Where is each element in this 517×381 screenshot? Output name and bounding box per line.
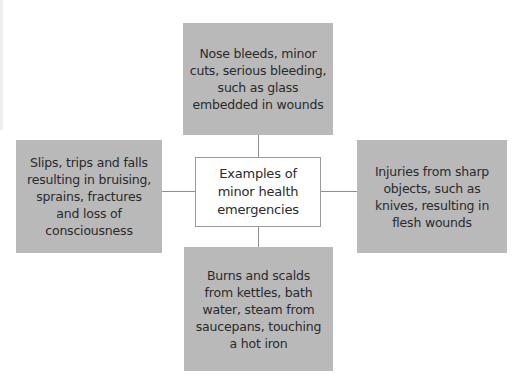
node-right-label: Injuries from sharp objects, such as kni… [357,163,507,231]
node-right: Injuries from sharp objects, such as kni… [357,140,507,253]
node-bottom: Burns and scalds from kettles, bath wate… [184,247,333,371]
node-top-label: Nose bleeds, minor cuts, serious bleedin… [183,45,333,113]
node-left-label: Slips, trips and falls resulting in brui… [16,154,162,239]
node-top: Nose bleeds, minor cuts, serious bleedin… [183,23,333,135]
page-edge-rule [0,0,3,130]
center-node-label: Examples of minor health emergencies [196,165,320,219]
center-node: Examples of minor health emergencies [195,157,321,227]
node-bottom-label: Burns and scalds from kettles, bath wate… [184,267,333,352]
node-left: Slips, trips and falls resulting in brui… [16,140,162,253]
connector-right [320,191,357,192]
connector-top [258,135,259,157]
connector-bottom [258,226,259,247]
connector-left [162,191,195,192]
